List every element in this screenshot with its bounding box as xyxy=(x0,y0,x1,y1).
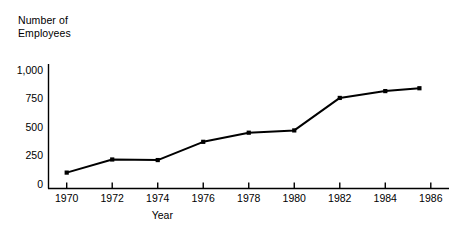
x-axis-tick-label: 1974 xyxy=(146,192,170,204)
y-axis-tick-label: 750 xyxy=(25,92,43,104)
x-axis-tick-label: 1986 xyxy=(419,192,443,204)
y-axis-tick-label: 250 xyxy=(25,149,43,161)
data-point-marker xyxy=(156,158,160,162)
data-line xyxy=(67,88,420,172)
x-axis-tick-label: 1972 xyxy=(101,192,125,204)
y-axis-tick-label: 0 xyxy=(37,178,43,190)
data-point-marker xyxy=(383,89,387,93)
data-point-marker xyxy=(65,171,69,175)
data-point-marker xyxy=(110,157,114,161)
y-axis-tick-label: 1,000 xyxy=(17,64,43,76)
x-axis-tick-label: 1978 xyxy=(237,192,261,204)
x-axis-tick-label: 1976 xyxy=(192,192,216,204)
x-axis-title: Year xyxy=(152,209,174,221)
data-point-marker xyxy=(201,140,205,144)
line-chart-plot: 197019721974197619781980198219841986 025… xyxy=(0,0,458,235)
data-point-marker xyxy=(292,128,296,132)
data-point-marker xyxy=(247,131,251,135)
data-point-marker xyxy=(338,96,342,100)
x-axis-tick-labels: 197019721974197619781980198219841986 xyxy=(55,192,443,204)
axis-lines xyxy=(48,64,449,189)
data-point-markers xyxy=(65,86,422,175)
data-point-marker xyxy=(417,86,421,90)
x-axis-tick-label: 1982 xyxy=(328,192,352,204)
x-axis-tick-label: 1984 xyxy=(374,192,398,204)
x-axis-tick-label: 1980 xyxy=(283,192,307,204)
x-axis-tick-label: 1970 xyxy=(55,192,79,204)
y-axis-tick-label: 500 xyxy=(25,121,43,133)
chart-container: Number of Employees 19701972197419761978… xyxy=(0,0,458,235)
y-axis-tick-labels: 02505007501,000 xyxy=(17,64,43,190)
x-axis-ticks xyxy=(67,183,431,189)
